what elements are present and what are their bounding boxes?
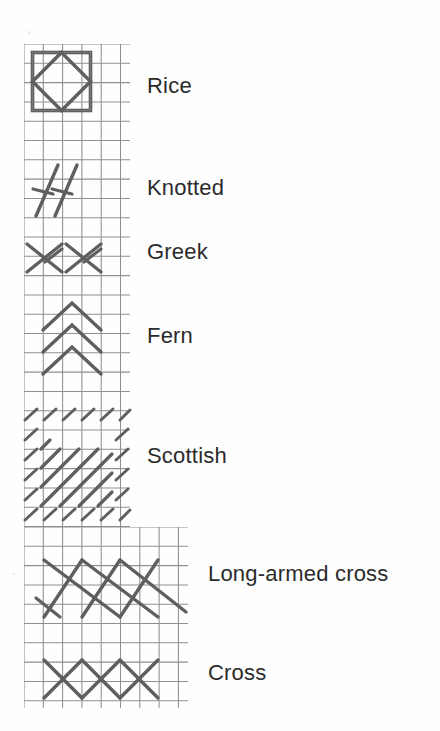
- stitch-label-long-armed-cross: Long-armed cross: [208, 563, 389, 585]
- stitch-diagram-fern: [43, 303, 101, 374]
- stitch-diagram-greek: [27, 244, 101, 272]
- stitch-diagram-svg: [0, 0, 440, 731]
- graph-paper-lower: [24, 527, 188, 708]
- stitch-diagram-long-armed-cross: [36, 560, 186, 617]
- stitch-label-scottish: Scottish: [147, 445, 227, 467]
- graph-paper-upper: [24, 44, 130, 527]
- stitch-diagram-scottish: [25, 409, 130, 520]
- stitch-label-knotted: Knotted: [147, 177, 224, 199]
- stitch-diagram-knotted: [33, 165, 77, 216]
- chart-page: Rice Knotted Greek Fern Scottish Long-ar…: [0, 0, 440, 731]
- stitch-label-greek: Greek: [147, 241, 208, 263]
- stitch-label-cross: Cross: [208, 662, 266, 684]
- stitch-label-fern: Fern: [147, 325, 193, 347]
- stitch-label-rice: Rice: [147, 75, 192, 97]
